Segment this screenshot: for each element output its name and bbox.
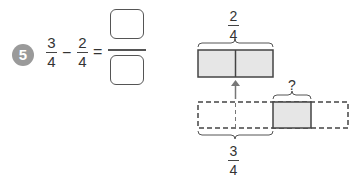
top-brace-icon [198, 39, 273, 47]
unknown-brace-icon [273, 91, 311, 99]
fraction-bar-diagram [0, 0, 357, 182]
bottom-brace-icon [198, 131, 273, 139]
unknown-quarter-bar [273, 102, 311, 128]
